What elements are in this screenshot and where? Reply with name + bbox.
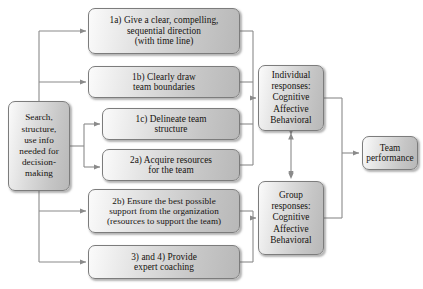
node-step-1a[interactable]: 1a) Give a clear, compelling, sequential… [88,8,240,54]
node-step-1b-label: 1b) Clearly draw team boundaries [129,72,199,93]
node-step-2a[interactable]: 2a) Acquire resources for the team [102,149,240,181]
node-individual-responses-label: Individual responses: Cognitive Affectiv… [267,70,314,126]
node-step-2a-label: 2a) Acquire resources for the team [127,155,215,176]
node-group-responses[interactable]: Group responses: Cognitive Affective Beh… [258,181,324,255]
diagram-canvas: Search, structure, use info needed for d… [0,0,423,289]
node-step-1b[interactable]: 1b) Clearly draw team boundaries [88,66,240,98]
node-individual-responses[interactable]: Individual responses: Cognitive Affectiv… [258,65,324,131]
node-search-structure-use-info[interactable]: Search, structure, use info needed for d… [8,101,70,191]
node-step-3-and-4-label: 3) and 4) Provide expert coaching [128,252,200,273]
node-step-2b[interactable]: 2b) Ensure the best possible support fro… [88,189,240,233]
node-group-responses-label: Group responses: Cognitive Affective Beh… [267,190,314,246]
node-step-3-and-4[interactable]: 3) and 4) Provide expert coaching [88,245,240,279]
node-team-performance-label: Team performance [363,143,417,164]
node-step-1c[interactable]: 1c) Delineate team structure [102,108,240,140]
node-step-1a-label: 1a) Give a clear, compelling, sequential… [107,15,222,46]
node-search-label: Search, structure, use info needed for d… [16,112,62,179]
node-step-2b-label: 2b) Ensure the best possible support fro… [104,196,224,227]
node-team-performance[interactable]: Team performance [362,136,418,170]
node-step-1c-label: 1c) Delineate team structure [132,114,209,135]
